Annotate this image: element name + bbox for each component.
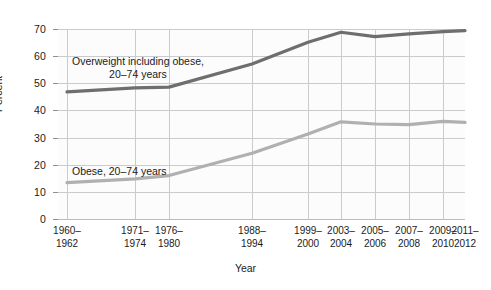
x-tick-label-9: 2011–2012 bbox=[445, 225, 485, 250]
annotation-overweight-line1: Overweight including obese, bbox=[72, 55, 204, 68]
y-tick-label-20: 20 bbox=[0, 160, 46, 171]
annotation-obese-line1: Obese, 20–74 years bbox=[72, 165, 167, 178]
y-tick-label-50: 50 bbox=[0, 78, 46, 89]
x-tick-label-0: 1960–1962 bbox=[47, 225, 87, 250]
x-tick-label-3: 1988–1994 bbox=[232, 225, 272, 250]
x-axis-line bbox=[58, 219, 465, 220]
x-tick-top-3: 1988– bbox=[232, 225, 272, 238]
annotation-obese: Obese, 20–74 years bbox=[72, 165, 167, 178]
annotation-overweight: Overweight including obese, 20–74 years bbox=[72, 55, 204, 81]
x-axis-title: Year bbox=[0, 262, 491, 274]
x-tick-bottom-0: 1962 bbox=[47, 238, 87, 251]
annotation-overweight-line2: 20–74 years bbox=[72, 68, 204, 81]
x-tick-label-2: 1976–1980 bbox=[149, 225, 189, 250]
x-tick-bottom-2: 1980 bbox=[149, 238, 189, 251]
x-tick-bottom-3: 1994 bbox=[232, 238, 272, 251]
y-tick-label-0: 0 bbox=[0, 214, 46, 225]
x-tick-top-0: 1960– bbox=[47, 225, 87, 238]
x-tick-bottom-9: 2012 bbox=[445, 238, 485, 251]
y-tick-label-70: 70 bbox=[0, 24, 46, 35]
y-tick-label-30: 30 bbox=[0, 133, 46, 144]
x-tick-top-9: 2011– bbox=[445, 225, 485, 238]
chart-figure: Percent 010203040506070 1960–19621971–19… bbox=[0, 0, 491, 290]
y-tick-label-40: 40 bbox=[0, 105, 46, 116]
y-tick-label-10: 10 bbox=[0, 187, 46, 198]
y-tick-label-60: 60 bbox=[0, 51, 46, 62]
x-tick-top-2: 1976– bbox=[149, 225, 189, 238]
